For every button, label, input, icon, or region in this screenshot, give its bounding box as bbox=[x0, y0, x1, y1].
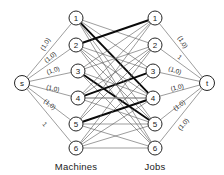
bipartite-edge-m6-j3 bbox=[81, 76, 148, 143]
source-edge-label-s-m3: (1,0) bbox=[46, 65, 61, 77]
source-edge-label-s-m5: (1,0) bbox=[42, 97, 57, 111]
node-label-m6: 6 bbox=[74, 144, 79, 153]
node-label-m2: 2 bbox=[74, 41, 79, 50]
bipartite-flow-figure: 123456123456st (1,0)(1,0)(1,0)(1,0)(1,0)… bbox=[0, 0, 224, 175]
node-machine-m6: 6 bbox=[69, 141, 83, 155]
node-source-s: s bbox=[15, 76, 30, 91]
jobs-caption: Jobs bbox=[145, 161, 166, 172]
node-label-m5: 5 bbox=[74, 120, 79, 129]
source-edge-label-s-m6: 1 bbox=[41, 120, 49, 128]
node-machine-m5: 5 bbox=[69, 117, 83, 131]
node-machine-m4: 4 bbox=[71, 91, 85, 105]
machines-caption: Machines bbox=[55, 161, 97, 172]
node-label-s: s bbox=[20, 79, 24, 88]
node-machine-m2: 2 bbox=[69, 38, 83, 52]
bipartite-edge-layer bbox=[80, 20, 152, 148]
node-job-j2: 2 bbox=[148, 38, 162, 52]
node-job-j3: 3 bbox=[146, 64, 160, 78]
node-label-j2: 2 bbox=[153, 41, 158, 50]
node-label-j4: 4 bbox=[151, 94, 156, 103]
node-machine-m3: 3 bbox=[71, 64, 85, 78]
node-label-j5: 5 bbox=[153, 120, 158, 129]
bipartite-edge-m4-j2 bbox=[84, 49, 149, 94]
node-label-j6: 6 bbox=[153, 144, 158, 153]
node-machine-m1: 1 bbox=[69, 11, 83, 25]
caption-layer: MachinesJobs bbox=[55, 161, 166, 172]
source-edge-label-s-m1: (1,0) bbox=[39, 37, 53, 52]
node-label-m4: 4 bbox=[76, 94, 81, 103]
bipartite-edge-m4-j1 bbox=[83, 23, 150, 93]
bipartite-edge-m2-j3 bbox=[83, 47, 147, 69]
node-job-j6: 6 bbox=[148, 141, 162, 155]
node-job-j5: 5 bbox=[148, 117, 162, 131]
source-edge-label-s-m4: (1,0) bbox=[46, 83, 61, 94]
node-label-j1: 1 bbox=[153, 14, 158, 23]
sink-edge-label-j1-t: (1,0) bbox=[176, 35, 190, 50]
node-label-m1: 1 bbox=[74, 14, 79, 23]
network-diagram-canvas: 123456123456st (1,0)(1,0)(1,0)(1,0)(1,0)… bbox=[0, 0, 224, 175]
node-job-j1: 1 bbox=[148, 11, 162, 25]
node-job-j4: 4 bbox=[146, 91, 160, 105]
node-label-m3: 3 bbox=[76, 67, 81, 76]
bipartite-edge-m2-j4 bbox=[82, 49, 147, 94]
node-label-j3: 3 bbox=[151, 67, 156, 76]
sink-edge-label-j2-t: 1 bbox=[176, 53, 184, 61]
source-edge-label-s-m2: (1,0) bbox=[43, 50, 58, 65]
node-sink-t: t bbox=[200, 76, 215, 91]
